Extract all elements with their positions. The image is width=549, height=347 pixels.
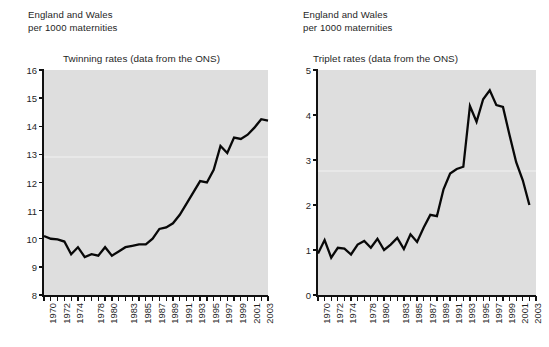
- x-tick-label-twinning: 1985: [143, 303, 153, 324]
- x-tick-triplet: [502, 296, 503, 301]
- x-tick-twinning: [77, 296, 78, 301]
- x-tick-label-triplet: 1972: [335, 303, 345, 324]
- x-tick-twinning: [132, 296, 133, 301]
- y-tick-label-triplet: 2: [306, 200, 311, 211]
- x-tick-triplet: [390, 296, 391, 301]
- x-tick-label-twinning: 1997: [224, 303, 234, 324]
- x-tick-label-twinning: 2003: [265, 303, 275, 324]
- y-tick-label-triplet: 5: [306, 65, 311, 76]
- chart-title-twinning: Twinning rates (data from the ONS): [63, 53, 220, 64]
- chart-title-triplet: Triplet rates (data from the ONS): [313, 53, 458, 64]
- x-tick-twinning: [186, 296, 187, 301]
- x-tick-label-triplet: 2001: [520, 303, 530, 324]
- y-tick-label-twinning: 9: [32, 261, 37, 272]
- figure-root: England and Wales per 1000 maternities T…: [0, 0, 549, 347]
- x-tick-label-triplet: 1978: [368, 303, 378, 324]
- x-tick-twinning: [50, 296, 51, 301]
- y-tick-label-triplet: 4: [306, 110, 311, 121]
- x-tick-twinning: [138, 296, 139, 301]
- x-tick-label-triplet: 1970: [322, 303, 332, 324]
- caption-twinning: England and Wales per 1000 maternities: [28, 8, 117, 35]
- x-tick-twinning: [91, 296, 92, 301]
- x-tick-triplet: [317, 296, 318, 301]
- x-tick-label-triplet: 1991: [454, 303, 464, 324]
- series-line-triplet: [318, 70, 536, 295]
- x-tick-label-triplet: 1974: [348, 303, 358, 324]
- x-tick-triplet: [370, 296, 371, 301]
- x-tick-label-twinning: 1993: [197, 303, 207, 324]
- x-tick-label-triplet: 1997: [494, 303, 504, 324]
- x-tick-triplet: [469, 296, 470, 301]
- x-tick-label-twinning: 1989: [170, 303, 180, 324]
- x-tick-triplet: [529, 296, 530, 301]
- x-tick-triplet: [377, 296, 378, 301]
- data-line-twinning: [44, 119, 268, 257]
- x-tick-label-triplet: 1989: [441, 303, 451, 324]
- x-tick-twinning: [118, 296, 119, 301]
- x-tick-triplet: [436, 296, 437, 301]
- x-tick-twinning: [98, 296, 99, 301]
- x-tick-triplet: [535, 296, 536, 301]
- caption-line-1: England and Wales: [303, 8, 392, 21]
- x-tick-triplet: [331, 296, 332, 301]
- x-tick-twinning: [179, 296, 180, 301]
- data-line-triplet: [318, 90, 529, 257]
- x-tick-twinning: [159, 296, 160, 301]
- x-tick-twinning: [111, 296, 112, 301]
- x-tick-triplet: [423, 296, 424, 301]
- x-tick-twinning: [104, 296, 105, 301]
- x-tick-label-triplet: 1980: [381, 303, 391, 324]
- x-tick-label-twinning: 1980: [109, 303, 119, 324]
- y-tick-label-twinning: 11: [27, 205, 37, 216]
- y-tick-label-twinning: 10: [26, 233, 37, 244]
- x-tick-label-triplet: 1993: [467, 303, 477, 324]
- x-tick-triplet: [456, 296, 457, 301]
- x-tick-twinning: [172, 296, 173, 301]
- x-tick-triplet: [383, 296, 384, 301]
- x-tick-triplet: [364, 296, 365, 301]
- caption-line-1: England and Wales: [28, 8, 117, 21]
- x-tick-triplet: [496, 296, 497, 301]
- x-tick-twinning: [261, 296, 262, 301]
- x-tick-label-triplet: 1985: [414, 303, 424, 324]
- x-tick-triplet: [483, 296, 484, 301]
- x-tick-triplet: [403, 296, 404, 301]
- x-tick-twinning: [193, 296, 194, 301]
- x-tick-triplet: [324, 296, 325, 301]
- y-tick-label-triplet: 3: [306, 155, 311, 166]
- x-tick-twinning: [152, 296, 153, 301]
- x-tick-triplet: [489, 296, 490, 301]
- x-tick-label-twinning: 1987: [157, 303, 167, 324]
- x-tick-triplet: [463, 296, 464, 301]
- y-tick-label-twinning: 14: [26, 121, 37, 132]
- x-tick-triplet: [522, 296, 523, 301]
- x-tick-label-twinning: 1972: [62, 303, 72, 324]
- x-tick-twinning: [71, 296, 72, 301]
- x-tick-triplet: [449, 296, 450, 301]
- x-tick-triplet: [516, 296, 517, 301]
- x-tick-twinning: [84, 296, 85, 301]
- x-tick-twinning: [254, 296, 255, 301]
- x-tick-twinning: [145, 296, 146, 301]
- y-tick-label-twinning: 13: [26, 149, 37, 160]
- x-tick-label-twinning: 2001: [252, 303, 262, 324]
- x-tick-triplet: [350, 296, 351, 301]
- x-tick-label-twinning: 1970: [48, 303, 58, 324]
- plot-area-twinning: 8910111213141516197019721974197819801983…: [44, 70, 268, 295]
- y-tick-label-triplet: 0: [306, 290, 311, 301]
- x-tick-triplet: [443, 296, 444, 301]
- x-tick-label-twinning: 1974: [75, 303, 85, 324]
- x-tick-triplet: [410, 296, 411, 301]
- x-tick-twinning: [240, 296, 241, 301]
- x-tick-twinning: [227, 296, 228, 301]
- x-tick-twinning: [57, 296, 58, 301]
- x-tick-twinning: [43, 296, 44, 301]
- x-tick-label-triplet: 1999: [507, 303, 517, 324]
- x-tick-triplet: [416, 296, 417, 301]
- caption-triplet: England and Wales per 1000 maternities: [303, 8, 392, 35]
- x-tick-label-twinning: 1999: [238, 303, 248, 324]
- x-tick-twinning: [206, 296, 207, 301]
- x-tick-twinning: [64, 296, 65, 301]
- x-tick-label-twinning: 1978: [96, 303, 106, 324]
- x-tick-twinning: [233, 296, 234, 301]
